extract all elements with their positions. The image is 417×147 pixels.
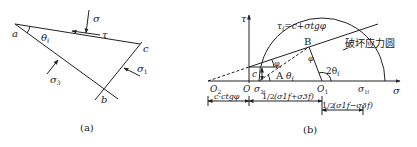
caption-b: (b) <box>303 124 317 135</box>
sigma-arrow <box>86 10 89 33</box>
dim-c-ctg-label: c·ctgφ <box>214 92 240 101</box>
radius-O1-B <box>309 47 322 81</box>
angle-arc-theta <box>27 26 30 33</box>
dim-half-diff-label: (σ1f−σ3f) <box>333 101 373 110</box>
plane-cb <box>95 42 142 100</box>
two-theta-f-label: 2θf <box>326 66 340 77</box>
caption-a: (a) <box>80 122 94 133</box>
mohr-coulomb-diagram: a b c θf σ τ σ3 σ1 (a) <box>0 0 417 147</box>
dim-half-sum-label: (σ1f+σ3f) <box>274 92 314 101</box>
chord-A-B <box>259 47 309 81</box>
point-a-label: a <box>12 28 18 39</box>
phi-at-B-label: φ <box>308 54 314 63</box>
sigma-label: σ <box>93 13 101 24</box>
envelope-equation: τf=c+σtgφ <box>277 21 327 32</box>
point-B-label: B <box>304 36 311 47</box>
origin-O-label: O <box>243 84 251 94</box>
point-c-label: c <box>143 43 149 54</box>
sigma3-arrow <box>47 60 58 74</box>
sigma1-label: σ1 <box>137 63 148 75</box>
panel-b-labels: τ σ τf=c+σtgφ 破坏应力圆 B A O O2 O1 c φ φ θf… <box>210 13 401 135</box>
sigma3-label: σ3 <box>50 74 61 86</box>
plane-ac <box>15 24 140 44</box>
c-label: c <box>252 69 257 79</box>
failure-circle-label: 破坏应力圆 <box>345 37 395 49</box>
panel-a-labels: a b c θf σ τ σ3 σ1 (a) <box>12 13 149 133</box>
envelope-extension <box>208 67 249 81</box>
dim-half-sum-frac: 1/2 <box>262 92 275 101</box>
panel-a <box>15 10 142 100</box>
point-A-label: A <box>275 70 284 81</box>
theta-f-label: θf <box>41 32 50 44</box>
sigma-axis-label: σ <box>393 85 401 96</box>
O1-label: O1 <box>317 84 328 95</box>
tau-axis-label: τ <box>241 13 247 24</box>
sigma1f-label: σ1f <box>358 84 370 95</box>
tau-label: τ <box>102 29 108 40</box>
theta-f-label: θf <box>286 71 294 82</box>
phi-label: φ <box>274 59 280 68</box>
point-b-label: b <box>101 94 107 105</box>
theta-arc <box>268 75 270 81</box>
